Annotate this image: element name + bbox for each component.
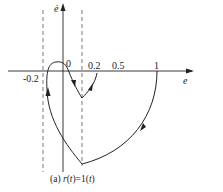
tick-neg-0-2: -0.2 [23,74,39,84]
trajectory-outer-left [47,62,82,164]
trajectory-inner-up [82,73,97,98]
arrow-icon-inner-up [88,83,93,91]
x-axis-label: e [183,76,187,86]
trajectory-inner-down [69,72,82,98]
tick-0-5: 0.5 [112,61,125,71]
y-axis-label: ė [54,4,58,14]
trajectory-outer-right [82,71,157,164]
tick-1: 1 [154,61,159,71]
figure-caption: (a) r(t)=1(t) [50,174,95,184]
arrow-icon-left-branch [46,87,51,96]
x-axis-arrow-icon [186,69,194,74]
tick-0: 0 [66,59,71,69]
tick-0-2: 0.2 [88,61,101,71]
phase-plane-diagram [0,0,223,192]
y-axis-arrow-icon [61,3,66,11]
